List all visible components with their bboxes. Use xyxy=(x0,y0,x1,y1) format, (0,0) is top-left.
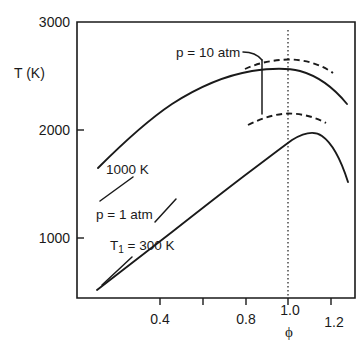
x-tick-label-1-2: 1.2 xyxy=(324,314,344,330)
annotation-t1-300k: T1 = 300 K xyxy=(110,238,174,255)
x-axis-title: ϕ xyxy=(285,324,293,340)
figure-caption xyxy=(0,341,364,350)
leader-p-10-atm-hook xyxy=(243,52,262,60)
chart-svg: 3000 2000 1000 T (K) 0.4 0.8 1.0 1.2 ϕ p… xyxy=(0,0,364,350)
annotation-1000k: 1000 K xyxy=(106,162,149,177)
figure-container: 3000 2000 1000 T (K) 0.4 0.8 1.0 1.2 ϕ p… xyxy=(0,0,364,350)
curve-1atm-1000K xyxy=(98,69,347,168)
annotation-t1-suffix: = 300 K xyxy=(124,238,175,253)
y-axis-ticks xyxy=(77,130,84,238)
y-tick-label-2000: 2000 xyxy=(39,122,70,138)
annotation-t1-prefix: T xyxy=(110,238,118,253)
y-tick-label-1000: 1000 xyxy=(39,230,70,246)
x-tick-label-1-0: 1.0 xyxy=(280,302,300,318)
leader-t1-300k xyxy=(102,257,132,285)
annotation-p-10-atm: p = 10 atm xyxy=(176,45,240,60)
leader-1000k xyxy=(100,177,133,201)
y-tick-label-3000: 3000 xyxy=(39,14,70,30)
x-tick-label-0-4: 0.4 xyxy=(150,311,170,327)
x-axis-ticks xyxy=(160,298,331,305)
curve-10atm-300K xyxy=(248,114,326,126)
y-axis-title: T (K) xyxy=(14,65,45,81)
leader-p-1-atm xyxy=(155,199,176,222)
annotation-p-1-atm: p = 1 atm xyxy=(96,207,153,222)
x-tick-label-0-8: 0.8 xyxy=(236,311,256,327)
